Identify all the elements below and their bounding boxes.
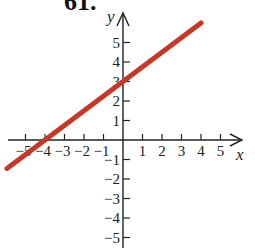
y-tick-label: 2 xyxy=(113,93,121,109)
y-tick-label: 4 xyxy=(113,54,121,70)
coordinate-plane: −5−4−3−2−112345−5−4−3−2−112345 x y xyxy=(0,0,255,248)
y-tick-label: −5 xyxy=(104,230,120,246)
x-tick-label: −2 xyxy=(74,143,90,159)
y-tick-label: −1 xyxy=(104,152,120,168)
axes xyxy=(8,13,242,248)
x-tick-label: 3 xyxy=(178,143,186,159)
x-tick-label: −3 xyxy=(55,143,71,159)
y-tick-label: −2 xyxy=(104,171,120,187)
y-tick-label: −3 xyxy=(104,191,120,207)
y-tick-label: 5 xyxy=(113,35,121,51)
x-tick-label: 4 xyxy=(197,143,205,159)
x-tick-label: 1 xyxy=(139,143,147,159)
x-tick-label: 2 xyxy=(158,143,166,159)
x-tick-label: 5 xyxy=(217,143,225,159)
y-axis-label: y xyxy=(105,7,115,26)
y-tick-label: −4 xyxy=(104,210,120,226)
x-axis-label: x xyxy=(235,145,244,164)
y-tick-label: 1 xyxy=(113,113,121,129)
